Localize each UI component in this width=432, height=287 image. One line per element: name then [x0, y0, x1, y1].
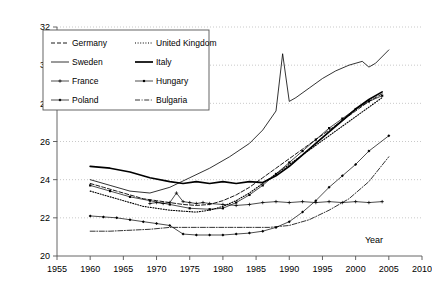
series-line — [90, 94, 382, 206]
x-tick-label: 1960 — [80, 264, 100, 274]
data-point-marker — [208, 234, 211, 237]
x-tick-label: 1975 — [180, 264, 200, 274]
data-point-marker — [149, 200, 151, 202]
legend-label: France — [72, 76, 99, 86]
data-point-marker — [355, 108, 357, 110]
data-point-marker — [288, 161, 290, 163]
y-tick-label: 20 — [40, 251, 50, 261]
data-point-marker — [89, 184, 91, 186]
data-point-marker — [129, 196, 131, 198]
y-tick-label: 24 — [40, 175, 50, 185]
data-point-marker — [248, 194, 250, 196]
x-tick-label: 1970 — [147, 264, 167, 274]
y-tick-label: 22 — [40, 213, 50, 223]
data-point-marker — [189, 207, 191, 209]
x-tick-label: 2010 — [412, 264, 432, 274]
data-point-marker — [234, 204, 237, 207]
data-point-marker — [115, 216, 118, 219]
x-tick-label: 1985 — [246, 264, 266, 274]
series-line — [90, 157, 389, 231]
data-point-marker — [380, 200, 383, 203]
data-point-marker — [368, 100, 370, 102]
data-point-marker — [341, 118, 343, 120]
data-point-marker — [262, 184, 264, 186]
legend-label: Germany — [72, 38, 108, 48]
data-point-marker — [235, 201, 237, 203]
data-point-marker — [195, 234, 198, 237]
data-point-marker — [155, 222, 158, 225]
x-tick-label: 1995 — [312, 264, 332, 274]
data-point-marker — [221, 203, 224, 206]
data-point-marker — [367, 201, 370, 204]
data-point-marker — [188, 201, 191, 204]
legend-label: Bulgaria — [156, 95, 187, 105]
data-point-marker — [222, 207, 224, 209]
data-point-marker — [129, 218, 132, 221]
data-point-marker — [248, 232, 251, 235]
legend-label: Sweden — [72, 57, 103, 67]
line-chart: 20222426283032 1955196019651970197519801… — [0, 0, 432, 287]
data-point-marker — [221, 234, 224, 237]
x-axis-ticks: 1955196019651970197519801985199019952000… — [47, 256, 432, 274]
data-point-marker — [354, 200, 357, 203]
series-germany — [90, 94, 382, 206]
data-point-marker — [381, 95, 383, 97]
data-point-marker — [209, 208, 211, 210]
data-point-marker — [148, 202, 151, 205]
x-tick-label: 1990 — [279, 264, 299, 274]
data-point-marker — [89, 214, 92, 217]
data-point-marker — [142, 220, 145, 223]
data-point-marker — [195, 202, 198, 205]
x-tick-label: 1955 — [47, 264, 67, 274]
data-point-marker — [328, 127, 330, 129]
data-point-marker — [235, 233, 238, 236]
legend-label: Italy — [156, 57, 172, 67]
data-point-marker — [288, 201, 291, 204]
legend-label: Poland — [72, 95, 99, 105]
legend-label: United Kingdom — [156, 38, 216, 48]
x-axis-title: Year — [365, 235, 383, 245]
chart-canvas: 20222426283032 1955196019651970197519801… — [0, 0, 432, 287]
x-tick-label: 2005 — [379, 264, 399, 274]
data-point-marker — [201, 201, 204, 204]
data-point-marker — [274, 200, 277, 203]
x-tick-label: 1980 — [213, 264, 233, 274]
data-point-marker — [275, 173, 277, 175]
chart-legend: GermanyUnited KingdomSwedenItalyFranceHu… — [43, 30, 216, 110]
data-point-marker — [109, 190, 111, 192]
data-point-marker — [261, 201, 264, 204]
data-point-marker — [301, 150, 303, 152]
y-tick-label: 26 — [40, 137, 50, 147]
data-point-marker — [315, 138, 317, 140]
x-tick-label: 2000 — [346, 264, 366, 274]
series-line — [90, 136, 389, 235]
legend-label: Hungary — [156, 76, 189, 86]
series-bulgaria — [90, 157, 389, 231]
series-line — [150, 193, 382, 205]
data-point-marker — [248, 203, 251, 206]
data-point-marker — [261, 230, 264, 233]
data-point-marker — [169, 203, 171, 205]
data-point-marker — [143, 80, 145, 82]
data-point-marker — [327, 200, 330, 203]
data-point-marker — [301, 200, 304, 203]
x-tick-label: 1965 — [113, 264, 133, 274]
